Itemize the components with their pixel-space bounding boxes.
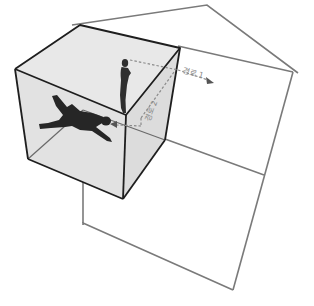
house-floor: [83, 223, 233, 290]
diagram-canvas: 경로 1 경로 2: [0, 0, 314, 306]
path-1-label: 경로 1: [182, 65, 205, 80]
path-1-arrowhead: [206, 77, 214, 84]
house-right-wall: [233, 72, 293, 290]
house-mid-line: [165, 139, 264, 175]
